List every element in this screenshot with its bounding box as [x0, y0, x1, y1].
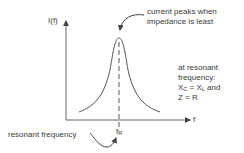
condition-and: and [205, 83, 221, 92]
peak-annotation-line-1: current peaks when [147, 7, 217, 17]
condition-line-4: Z = R [178, 93, 220, 103]
y-axis-label: I(f) [48, 16, 58, 26]
resonant-frequency-marker-label: fR [116, 127, 122, 137]
condition-line-2: frequency: [178, 73, 220, 83]
condition-line-3: XC = XL and [178, 83, 220, 93]
resonant-frequency-arrow-icon [90, 133, 116, 147]
condition-line-1: at resonant [178, 63, 220, 73]
xl-symbol: = X [187, 83, 201, 92]
x-axis-label: f [193, 115, 195, 125]
peak-annotation-arrow-icon [120, 15, 144, 30]
peak-annotation: current peaks when impedance is least [147, 7, 217, 27]
resonance-condition-annotation: at resonant frequency: XC = XL and Z = R [178, 63, 220, 103]
peak-annotation-line-2: impedance is least [147, 17, 217, 27]
marker-label-subscript: R [118, 130, 122, 136]
resonant-frequency-annotation: resonant frequency [8, 130, 77, 140]
